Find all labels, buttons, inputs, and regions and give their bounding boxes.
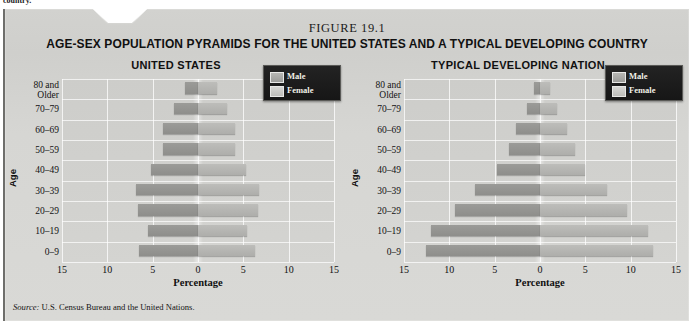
pyramid-row [404,99,676,119]
y-axis-tick-label: 60–69 [7,125,59,135]
y-axis-tick-label: 10–19 [349,226,401,236]
bar-female [198,245,255,257]
bar-male [509,143,540,155]
pyramid-row [404,160,676,180]
legend-swatch-male-left [270,72,284,83]
bar-male [185,82,198,94]
y-axis-tick-label: 50–59 [349,145,401,155]
legend-swatch-male-right [612,72,626,83]
figure-container: FIGURE 19.1 AGE-SEX POPULATION PYRAMIDS … [3,9,689,321]
bar-male [148,225,198,237]
pyramid-row [404,140,676,160]
bar-female [540,164,585,176]
y-axis-tick-label: 20–29 [7,206,59,216]
chart-panel-united-states: UNITED STATES Age 80 andOlder70–7960–695… [5,59,347,294]
pyramid-row [404,221,676,241]
y-axis-tick-label: 70–79 [7,104,59,114]
x-axis-tick-label: 10 [437,264,461,275]
figure-source: Source: U.S. Census Bureau and the Unite… [13,302,195,312]
bar-male [139,245,198,257]
pyramid-row [62,221,334,241]
bar-female [198,103,227,115]
page-text-fragment: country. [0,0,690,9]
bar-male [516,123,540,135]
pyramid-row [62,201,334,221]
bar-male [151,164,198,176]
gridline-vertical [676,79,677,262]
legend-label-female-left: Female [287,84,313,96]
x-axis-tick-label: 0 [186,264,210,275]
bar-male [174,103,198,115]
pyramid-row [404,181,676,201]
legend-swatch-female-right [612,86,626,97]
bar-male [163,123,198,135]
y-axis-tick-label: 50–59 [7,145,59,155]
pyramid-row [62,120,334,140]
bar-female [198,164,246,176]
x-axis-tick-label: 10 [277,264,301,275]
page-fragment-text: country. [3,0,31,5]
bar-female [540,204,627,216]
pyramid-row [62,140,334,160]
y-axis-tick-label: 0–9 [7,247,59,257]
gridline-vertical [334,79,335,262]
y-axis-tick-label: 60–69 [349,125,401,135]
bar-male [138,204,198,216]
x-axis-tick-label: 5 [141,264,165,275]
y-axis-tick-label: 40–49 [349,165,401,175]
pyramid-row [404,120,676,140]
pyramid-row [62,99,334,119]
y-axis-tick-labels-right: 80 andOlder70–7960–6950–5940–4930–3920–2… [347,79,401,262]
legend-label-male-right: Male [629,70,647,82]
gridline-horizontal [404,262,676,263]
bar-female [198,184,259,196]
x-axis-tick-label: 10 [95,264,119,275]
x-axis-tick-label: 15 [392,264,416,275]
x-axis-tick-label: 10 [619,264,643,275]
x-axis-tick-label: 15 [322,264,346,275]
y-axis-tick-label: 80 andOlder [349,80,401,100]
x-axis-tick-labels-left: 15105051015 [62,264,334,278]
bar-male [163,143,198,155]
bar-female [540,123,567,135]
y-axis-tick-label: 80 andOlder [7,80,59,100]
figure-title: AGE-SEX POPULATION PYRAMIDS FOR THE UNIT… [5,37,689,51]
y-axis-tick-label: 20–29 [349,206,401,216]
y-axis-tick-labels-left: 80 andOlder70–7960–6950–5940–4930–3920–2… [5,79,59,262]
x-axis-tick-label: 15 [50,264,74,275]
y-axis-tick-label: 40–49 [7,165,59,175]
x-axis-tick-label: 5 [483,264,507,275]
legend-swatch-female-left [270,86,284,97]
y-axis-tick-label: 30–39 [7,186,59,196]
y-axis-tick-label: 10–19 [7,226,59,236]
bar-female [198,82,217,94]
bar-female [540,225,648,237]
bar-male [475,184,540,196]
y-axis-tick-label: 70–79 [349,104,401,114]
bar-male [527,103,540,115]
legend-label-male-left: Male [287,70,305,82]
bar-male [426,245,540,257]
bar-female [540,103,557,115]
gridline-horizontal [62,262,334,263]
bar-female [540,184,607,196]
pyramid-row [404,242,676,262]
legend-label-female-right: Female [629,84,655,96]
legend-left: Male Female [263,65,341,101]
bar-female [540,82,550,94]
figure-number: FIGURE 19.1 [5,21,689,36]
x-axis-title-right: Percentage [404,277,676,288]
bar-male [431,225,540,237]
x-axis-tick-label: 5 [573,264,597,275]
pyramid-row [62,242,334,262]
bar-female [540,143,575,155]
bar-male [455,204,540,216]
x-axis-tick-label: 15 [664,264,688,275]
bar-female [198,225,247,237]
pyramid-row [62,160,334,180]
y-axis-tick-label: 30–39 [349,186,401,196]
plot-area-developing-nation [404,79,676,262]
x-axis-tick-labels-right: 15105051015 [404,264,676,278]
chart-panel-developing-nation: TYPICAL DEVELOPING NATION Age 80 andOlde… [347,59,689,294]
y-axis-tick-label: 0–9 [349,247,401,257]
